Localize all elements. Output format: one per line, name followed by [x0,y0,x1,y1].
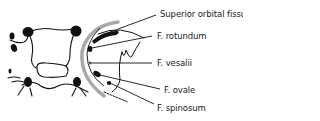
f-vesalii-shape [89,62,92,65]
foramina [88,31,119,85]
label-f-ovale: F. ovale [164,86,195,95]
label-f-spinosum: F. spinosum [157,104,206,113]
f-ovale-shape [92,70,101,78]
label-superior-orbital-fissure: Superior orbital fissure [160,10,243,19]
label-f-vesalii: F. vesalii [157,59,192,68]
label-f-rotundum: F. rotundum [157,32,207,41]
f-rotundum-shape [88,46,93,52]
greater-wing-outline [98,30,144,102]
